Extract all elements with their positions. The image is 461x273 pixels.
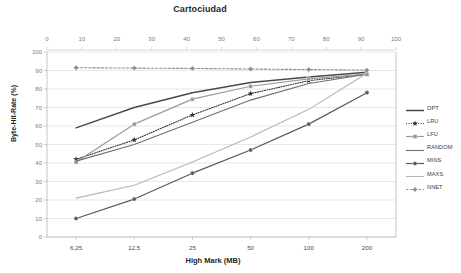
- legend-label-opt: OPT: [427, 105, 439, 111]
- legend-key-lru-icon: [405, 115, 425, 126]
- gridlines: [47, 52, 396, 237]
- secondary-x-axis-ticks: 0102030405060708090100: [45, 36, 401, 50]
- legend-key-opt-icon: [405, 102, 425, 113]
- svg-text:100: 100: [32, 49, 43, 55]
- series-lfu: [74, 72, 369, 164]
- svg-text:20: 20: [113, 36, 120, 42]
- svg-text:50: 50: [35, 142, 42, 148]
- legend-key-random-icon: [405, 142, 425, 153]
- svg-text:40: 40: [183, 36, 190, 42]
- svg-text:100: 100: [391, 36, 402, 42]
- plot-area: 0102030405060708090100 01020304050607080…: [0, 0, 461, 273]
- legend-label-mins: MINS: [427, 157, 441, 163]
- legend-label-random: RANDOM: [427, 144, 452, 150]
- svg-text:0: 0: [45, 36, 49, 42]
- svg-text:20: 20: [35, 197, 42, 203]
- legend-item-maxs[interactable]: MAXS: [405, 167, 461, 180]
- svg-text:40: 40: [35, 160, 42, 166]
- chart-legend: OPTLRULFURANDOMMINSMAXSNNET: [405, 101, 461, 193]
- x-axis-category-labels: 6,2512,52550100200: [70, 237, 373, 251]
- legend-label-nnet: NNET: [427, 184, 443, 190]
- svg-text:60: 60: [35, 123, 42, 129]
- legend-item-mins[interactable]: MINS: [405, 154, 461, 167]
- svg-text:10: 10: [79, 36, 86, 42]
- series-maxs: [76, 73, 367, 198]
- legend-key-lfu-icon: [405, 128, 425, 139]
- svg-text:12,5: 12,5: [128, 244, 141, 251]
- chart-container: Cartociudad Byte-Hit-Rate (%) High Mark …: [0, 0, 461, 273]
- svg-text:60: 60: [253, 36, 260, 42]
- svg-text:70: 70: [288, 36, 295, 42]
- svg-text:50: 50: [218, 36, 225, 42]
- legend-item-opt[interactable]: OPT: [405, 101, 461, 114]
- legend-label-lfu: LFU: [427, 131, 438, 137]
- svg-text:90: 90: [35, 68, 42, 74]
- legend-label-lru: LRU: [427, 118, 439, 124]
- svg-text:70: 70: [35, 105, 42, 111]
- svg-text:100: 100: [304, 244, 315, 251]
- legend-item-lru[interactable]: LRU: [405, 114, 461, 127]
- series-nnet: [74, 65, 370, 72]
- series-lru: [73, 71, 370, 162]
- y-axis-ticks: 0102030405060708090100: [32, 49, 47, 240]
- svg-text:30: 30: [35, 179, 42, 185]
- svg-text:80: 80: [323, 36, 330, 42]
- svg-text:30: 30: [148, 36, 155, 42]
- svg-text:10: 10: [35, 216, 42, 222]
- data-series-group: [73, 65, 370, 220]
- legend-key-mins-icon: [405, 155, 425, 166]
- svg-text:0: 0: [39, 234, 43, 240]
- legend-key-nnet-icon: [405, 181, 425, 192]
- svg-text:200: 200: [362, 244, 373, 251]
- series-mins: [74, 91, 369, 221]
- svg-text:25: 25: [189, 244, 196, 251]
- svg-text:80: 80: [35, 86, 42, 92]
- legend-item-nnet[interactable]: NNET: [405, 180, 461, 193]
- svg-text:50: 50: [247, 244, 254, 251]
- legend-item-lfu[interactable]: LFU: [405, 127, 461, 140]
- svg-text:6,25: 6,25: [70, 244, 83, 251]
- svg-text:90: 90: [358, 36, 365, 42]
- legend-key-maxs-icon: [405, 168, 425, 179]
- legend-item-random[interactable]: RANDOM: [405, 141, 461, 154]
- legend-label-maxs: MAXS: [427, 171, 443, 177]
